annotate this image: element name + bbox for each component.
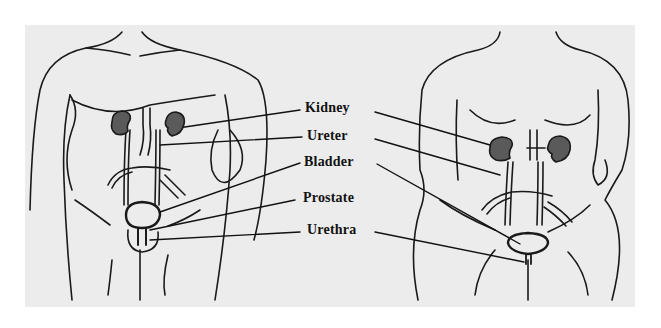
female-figure bbox=[413, 32, 629, 300]
label-kidney: Kidney bbox=[305, 100, 350, 116]
male-figure bbox=[30, 32, 267, 300]
female-kidney-left bbox=[490, 137, 513, 161]
label-prostate: Prostate bbox=[303, 190, 354, 206]
male-kidney-left bbox=[112, 111, 131, 135]
label-bladder: Bladder bbox=[304, 154, 354, 170]
male-kidney-right bbox=[165, 112, 184, 136]
label-ureter: Ureter bbox=[307, 128, 348, 144]
female-kidney-right bbox=[548, 136, 571, 162]
label-urethra: Urethra bbox=[307, 222, 356, 238]
